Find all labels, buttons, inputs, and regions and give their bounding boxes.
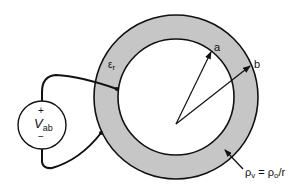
source-minus-sign: − [38, 132, 44, 142]
wire-top-junction [115, 87, 119, 91]
source-voltage-label: Vab [34, 117, 53, 130]
inner-radius-label: a [214, 42, 220, 53]
equals-rho: = ρ [255, 166, 274, 178]
inner-sphere-boundary [118, 39, 234, 155]
outer-radius-label: b [254, 59, 260, 70]
rho-o-subscript: o [274, 171, 278, 180]
radius-a-arrow [176, 52, 211, 124]
divide-r: /r [279, 166, 286, 178]
wire-bottom-junction [99, 131, 103, 135]
voltage-subscript: ab [43, 123, 53, 133]
spherical-capacitor-diagram [0, 0, 296, 192]
rho-v-subscript: v [251, 171, 255, 180]
epsilon-subscript: r [112, 63, 115, 72]
voltage-symbol: V [34, 116, 43, 131]
charge-density-label: ρv = ρo/r [245, 167, 285, 178]
source-plus-sign: + [38, 106, 44, 116]
permittivity-label: εr [108, 60, 115, 70]
